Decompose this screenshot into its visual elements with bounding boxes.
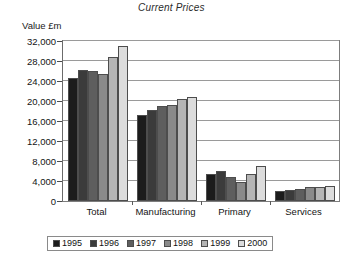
y-axis-tick-marks — [0, 40, 62, 202]
bar-group — [63, 41, 132, 201]
bar[interactable] — [246, 174, 256, 202]
legend-label: 1996 — [99, 239, 119, 248]
legend-label: 1997 — [136, 239, 156, 248]
bar[interactable] — [137, 115, 147, 201]
legend-swatch — [127, 240, 134, 247]
y-axis-title: Value £m — [22, 20, 61, 31]
x-axis-tick-label: Services — [285, 206, 321, 217]
legend-label: 1999 — [210, 239, 230, 248]
bar[interactable] — [315, 187, 325, 201]
bar[interactable] — [167, 105, 177, 201]
bar[interactable] — [98, 74, 108, 201]
bar[interactable] — [236, 182, 246, 202]
bar[interactable] — [147, 110, 157, 201]
chart-legend: 199519961997199819992000 — [47, 236, 273, 251]
bar[interactable] — [206, 174, 216, 202]
legend-swatch — [90, 240, 97, 247]
category-separator-tick — [270, 201, 271, 205]
legend-item[interactable]: 1996 — [90, 239, 119, 248]
bar[interactable] — [118, 46, 128, 201]
bar-group — [132, 41, 201, 201]
category-separator-tick — [201, 201, 202, 205]
legend-label: 1998 — [173, 239, 193, 248]
x-axis-tick-label: Total — [86, 206, 106, 217]
bar[interactable] — [226, 177, 236, 201]
bar[interactable] — [295, 189, 305, 201]
legend-item[interactable]: 1998 — [164, 239, 193, 248]
bar[interactable] — [78, 70, 88, 202]
bar-chart: Current Prices Value £m 04,0008,00012,00… — [0, 0, 357, 263]
legend-swatch — [53, 240, 60, 247]
bar[interactable] — [88, 71, 98, 201]
legend-swatch — [164, 240, 171, 247]
bar[interactable] — [216, 171, 226, 201]
legend-item[interactable]: 1997 — [127, 239, 156, 248]
plot-area — [62, 40, 340, 202]
bar[interactable] — [325, 186, 335, 201]
chart-title: Current Prices — [138, 2, 205, 13]
bar-group — [270, 41, 339, 201]
bar[interactable] — [157, 106, 167, 202]
bar[interactable] — [108, 57, 118, 202]
x-axis-tick-label: Manufacturing — [135, 206, 195, 217]
category-separator-tick — [132, 201, 133, 205]
bar-group — [201, 41, 270, 201]
bar[interactable] — [275, 191, 285, 201]
bar[interactable] — [305, 187, 315, 201]
bar[interactable] — [177, 99, 187, 201]
bar[interactable] — [187, 97, 197, 202]
legend-label: 2000 — [247, 239, 267, 248]
legend-swatch — [238, 240, 245, 247]
bar[interactable] — [68, 78, 78, 202]
legend-swatch — [201, 240, 208, 247]
bar[interactable] — [256, 166, 266, 201]
x-axis-category-labels: TotalManufacturingPrimaryServices — [62, 206, 340, 222]
legend-item[interactable]: 1995 — [53, 239, 82, 248]
legend-label: 1995 — [62, 239, 82, 248]
bar[interactable] — [285, 190, 295, 202]
legend-item[interactable]: 1999 — [201, 239, 230, 248]
x-axis-tick-label: Primary — [218, 206, 251, 217]
legend-item[interactable]: 2000 — [238, 239, 267, 248]
